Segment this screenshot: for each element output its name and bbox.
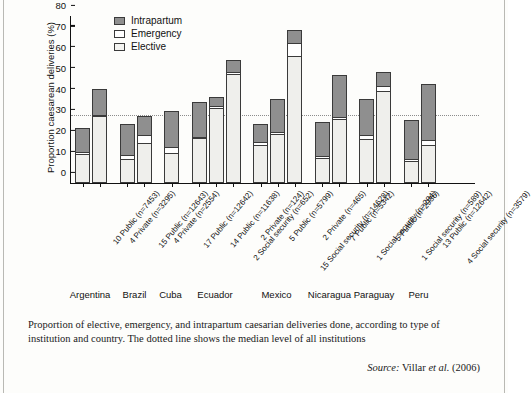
country-label: Paraguay	[354, 289, 395, 300]
bar-segment-intrapartum	[92, 89, 107, 116]
x-tick-mark	[83, 183, 84, 187]
bar-segment-elective	[359, 139, 374, 183]
bar-segment-intrapartum	[75, 128, 90, 153]
bar-segment-elective	[315, 158, 330, 183]
y-tick-mark	[71, 88, 75, 89]
bar-segment-elective	[92, 116, 107, 183]
x-tick-mark	[428, 183, 429, 187]
bar-segment-intrapartum	[137, 116, 152, 136]
country-label: Ecuador	[197, 289, 232, 300]
bar-segment-elective	[75, 154, 90, 183]
bar-segment-intrapartum	[270, 99, 285, 132]
bar[interactable]	[192, 103, 207, 183]
bar-segment-elective	[137, 143, 152, 183]
y-tick-mark	[71, 25, 75, 26]
bar-segment-elective	[209, 108, 224, 183]
bar-segment-elective	[287, 56, 302, 183]
y-tick-20: 20	[55, 125, 71, 136]
page-rule-right	[504, 0, 505, 393]
y-tick-60: 60	[55, 41, 71, 52]
y-tick-50: 50	[55, 62, 71, 73]
y-tick-40: 40	[55, 83, 71, 94]
bar-segment-intrapartum	[332, 75, 347, 118]
bar[interactable]	[270, 100, 285, 183]
bar[interactable]	[209, 98, 224, 183]
bar-segment-intrapartum	[404, 120, 419, 160]
x-tick-mark	[278, 183, 279, 187]
x-tick-mark	[367, 183, 368, 187]
source-author: Villar	[402, 362, 426, 373]
x-axis-label: 5 Public (n=2936)	[393, 189, 440, 243]
country-label: Brazil	[123, 289, 147, 300]
y-tick-30: 30	[55, 104, 71, 115]
country-label: Mexico	[261, 289, 291, 300]
bar-segment-elective	[164, 153, 179, 183]
bar[interactable]	[315, 123, 330, 183]
x-tick-mark	[199, 183, 200, 187]
bar-segment-intrapartum	[120, 124, 135, 155]
x-tick-mark	[339, 183, 340, 187]
x-tick-mark	[384, 183, 385, 187]
bar-segment-intrapartum	[421, 84, 436, 141]
bar-segment-intrapartum	[164, 111, 179, 149]
bar-segment-intrapartum	[359, 99, 374, 136]
country-label: Nicaragua	[308, 289, 351, 300]
x-tick-mark	[127, 183, 128, 187]
y-tick-0: 0	[61, 167, 71, 178]
bar-segment-elective	[404, 161, 419, 183]
bar-segment-elective	[253, 145, 268, 183]
x-tick-mark	[411, 183, 412, 187]
x-tick-mark	[322, 183, 323, 187]
bar[interactable]	[376, 73, 391, 183]
bar-segment-intrapartum	[192, 102, 207, 139]
bar[interactable]	[287, 31, 302, 184]
bar[interactable]	[226, 61, 241, 183]
figure-caption: Proportion of elective, emergency, and i…	[28, 318, 480, 346]
bar-segment-elective	[376, 91, 391, 183]
y-tick-mark	[71, 67, 75, 68]
bar[interactable]	[404, 121, 419, 183]
source-etal: et al.	[428, 362, 449, 373]
bar[interactable]	[92, 90, 107, 183]
bar-segment-elective	[226, 74, 241, 183]
y-tick-mark	[71, 109, 75, 110]
page-rule-left	[3, 0, 4, 393]
y-axis-label: Proportion caesarean deliveries (%)	[45, 18, 56, 178]
y-tick-mark	[71, 4, 75, 5]
bar[interactable]	[359, 100, 374, 183]
stacked-bar-chart: Proportion caesarean deliveries (%) Intr…	[22, 8, 488, 308]
bar[interactable]	[137, 117, 152, 183]
bar[interactable]	[120, 125, 135, 183]
x-tick-mark	[216, 183, 217, 187]
x-tick-mark	[172, 183, 173, 187]
x-tick-mark	[100, 183, 101, 187]
y-tick-70: 70	[55, 20, 71, 31]
bar[interactable]	[332, 76, 347, 183]
bar-segment-elective	[192, 138, 207, 183]
y-tick-10: 10	[55, 146, 71, 157]
bar-segment-intrapartum	[376, 72, 391, 87]
bar-segment-intrapartum	[253, 124, 268, 143]
x-tick-mark	[144, 183, 145, 187]
plot-area: 01020304050607080	[70, 16, 475, 184]
source-year: (2006)	[452, 362, 480, 373]
x-tick-mark	[261, 183, 262, 187]
figure-source: Source: Villar et al. (2006)	[28, 362, 480, 373]
y-tick-80: 80	[55, 0, 71, 11]
x-tick-mark	[233, 183, 234, 187]
bar[interactable]	[164, 112, 179, 183]
bar[interactable]	[75, 129, 90, 183]
bar-segment-elective	[421, 145, 436, 183]
source-label: Source:	[367, 362, 399, 373]
country-label: Peru	[408, 289, 428, 300]
bar-segment-intrapartum	[226, 60, 241, 74]
bar[interactable]	[253, 125, 268, 183]
bar-segment-intrapartum	[315, 122, 330, 156]
bar-segment-intrapartum	[287, 30, 302, 45]
country-label: Cuba	[159, 289, 182, 300]
bar[interactable]	[421, 85, 436, 183]
bar-segment-elective	[332, 119, 347, 183]
country-label: Argentina	[70, 289, 111, 300]
bar-segment-emergency	[287, 43, 302, 57]
